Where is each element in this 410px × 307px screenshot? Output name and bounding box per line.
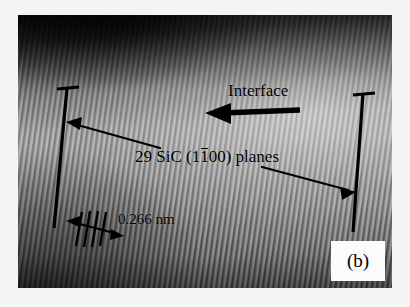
panel-label-b: (b) <box>331 241 385 281</box>
figure-panel-b: Interface 29 SiC (1100) planes 0.266 nm … <box>0 0 410 307</box>
